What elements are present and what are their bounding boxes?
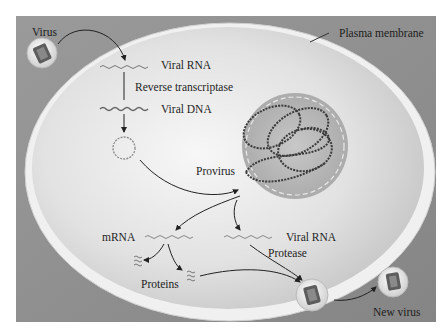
label-mrna: mRNA — [102, 232, 135, 244]
label-viral-dna: Viral DNA — [161, 104, 212, 116]
label-viral-rna-top: Viral RNA — [161, 60, 211, 72]
label-provirus: Provirus — [196, 166, 235, 178]
label-reverse-transcriptase: Reverse transcriptase — [135, 82, 233, 94]
label-plasma-membrane: Plasma membrane — [339, 28, 424, 40]
budding-virus — [296, 279, 328, 311]
label-new-virus: New virus — [373, 307, 421, 319]
diagram-stage: Virus Plasma membrane Viral RNA Reverse … — [0, 0, 448, 335]
label-viral-rna-bottom: Viral RNA — [286, 232, 336, 244]
label-proteins: Proteins — [141, 279, 179, 291]
label-protease: Protease — [268, 248, 307, 260]
new-virus-particle — [378, 267, 408, 297]
label-virus: Virus — [32, 27, 57, 39]
virus-particle — [27, 38, 57, 68]
